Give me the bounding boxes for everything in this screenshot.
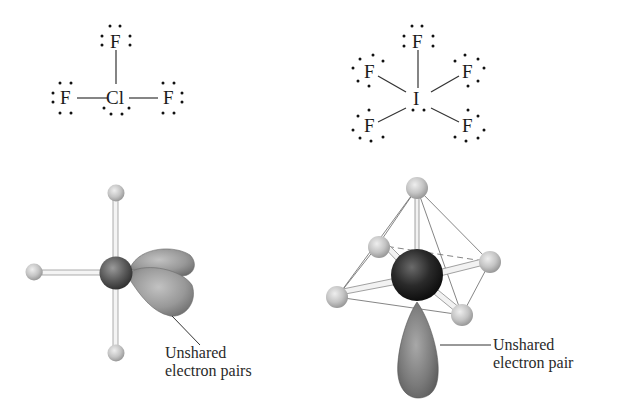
lone-pair-lobe: [398, 302, 439, 398]
bond-i-f-lower-left: [378, 108, 406, 122]
outer-atom-top: [108, 185, 125, 202]
central-atom: [391, 249, 443, 301]
leader-line: [172, 316, 200, 345]
atom-cl-central: Cl: [106, 87, 124, 108]
if5-lewis-structure: F F F I F F: [352, 25, 486, 143]
central-atom: [100, 257, 133, 290]
bond-i-f-lower-right: [431, 108, 459, 122]
atom-f-top: F: [412, 31, 423, 52]
outer-atom-back-left: [368, 236, 390, 258]
atom-f-lower-left: F: [364, 115, 375, 136]
bond-i-f-upper-right: [431, 76, 459, 92]
atom-f-top: F: [110, 31, 121, 52]
atom-f-left: F: [60, 87, 71, 108]
clf3-3d-model: Unshared electron pairs: [26, 185, 252, 381]
outer-atom-back-right: [479, 251, 501, 273]
clf3-lewis-structure: F F Cl F: [52, 25, 184, 116]
outer-atom-left: [26, 264, 43, 281]
lone-pairs-label-line2: electron pairs: [165, 362, 252, 380]
lone-pairs-label-line1: Unshared: [165, 344, 226, 361]
lone-pair-label-line2: electron pair: [493, 354, 574, 372]
molecular-geometry-figure: F F Cl F F F: [0, 0, 632, 420]
atom-f-lower-right: F: [462, 115, 473, 136]
outer-atom-front-right: [451, 304, 473, 326]
lone-pair-lobes: [130, 249, 194, 316]
outer-atom-apex: [406, 177, 428, 199]
bond-i-f-upper-left: [378, 76, 406, 92]
atom-i-central: I: [413, 88, 419, 109]
outer-atom-bottom: [108, 345, 125, 362]
lone-pair-label-line1: Unshared: [493, 336, 554, 353]
atom-f-upper-right: F: [462, 61, 473, 82]
if5-3d-model: Unshared electron pair: [326, 177, 574, 398]
outer-atom-front-left: [326, 286, 348, 308]
atom-f-right: F: [163, 87, 174, 108]
atom-f-upper-left: F: [364, 61, 375, 82]
